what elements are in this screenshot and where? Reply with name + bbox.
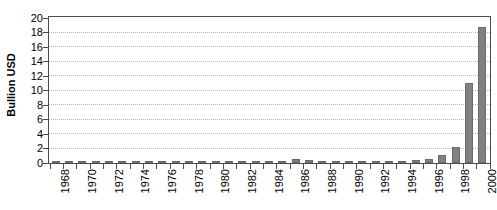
y-axis-title-label: Bullion USD (5, 53, 17, 117)
bar (438, 155, 446, 163)
bar (398, 161, 406, 163)
bar (118, 161, 126, 163)
y-axis-tick-label: 20 (31, 12, 43, 23)
y-axis-tick-label: 10 (31, 85, 43, 96)
x-axis-tick-label-text: 1988 (327, 169, 338, 193)
bar (252, 161, 260, 163)
x-axis-tick-label-text: 1992 (380, 169, 391, 193)
bar (278, 161, 286, 163)
x-axis-tick-label-text: 1998 (460, 169, 471, 193)
bar (92, 161, 100, 163)
bar (65, 161, 73, 163)
x-axis-tick-label-text: 1974 (140, 169, 151, 193)
bar-chart: Bullion USD 02468101214161820 1968197019… (0, 0, 497, 210)
x-axis-tick-label-text: 1968 (60, 169, 71, 193)
bar (185, 161, 193, 163)
x-axis-tick-label: 1974 (130, 169, 142, 209)
bar (478, 27, 486, 163)
x-axis-tick-label: 1992 (370, 169, 382, 209)
bar (305, 160, 313, 163)
bar (465, 83, 473, 163)
bar (292, 159, 300, 163)
x-axis-tick-label: 2000 (477, 169, 489, 209)
bar (198, 161, 206, 163)
bar (225, 161, 233, 163)
bar (132, 161, 140, 163)
bar (238, 161, 246, 163)
plot-area (48, 16, 491, 164)
bar (212, 161, 220, 163)
x-axis-tick-label-text: 1994 (407, 169, 418, 193)
x-axis-tick-label: 1972 (104, 169, 116, 209)
x-axis-tick-label: 1990 (344, 169, 356, 209)
bar (52, 161, 60, 163)
bar (345, 161, 353, 163)
x-axis-tick-label: 1968 (50, 169, 62, 209)
bar (105, 161, 113, 163)
bar (265, 161, 273, 163)
x-axis-tick-label: 1986 (290, 169, 302, 209)
bar (412, 160, 420, 163)
bar (318, 161, 326, 163)
y-axis-tick-label: 12 (31, 70, 43, 81)
y-axis-tick-labels: 02468101214161820 (20, 10, 46, 164)
x-axis-tick-label: 1998 (450, 169, 462, 209)
x-axis-tick-label-text: 1976 (167, 169, 178, 193)
y-axis-title: Bullion USD (0, 0, 22, 170)
y-axis-tick-label: 16 (31, 41, 43, 52)
x-axis-tick-label-text: 2000 (487, 169, 497, 193)
x-axis-tick-label: 1996 (424, 169, 436, 209)
x-axis-tick-label: 1994 (397, 169, 409, 209)
x-axis-tick-label-text: 1970 (87, 169, 98, 193)
bar (145, 161, 153, 163)
x-axis-tick-label: 1984 (264, 169, 276, 209)
x-axis-tick-label-text: 1978 (194, 169, 205, 193)
x-axis-tick-label-text: 1996 (434, 169, 445, 193)
bar (385, 161, 393, 163)
x-axis-tick-label-text: 1986 (300, 169, 311, 193)
bar (425, 159, 433, 163)
bar (158, 161, 166, 163)
x-axis-tick-label: 1980 (210, 169, 222, 209)
x-axis-tick-label-text: 1990 (354, 169, 365, 193)
x-axis-tick-label-text: 1980 (220, 169, 231, 193)
y-axis-tick-label: 14 (31, 56, 43, 67)
x-axis-tick-labels: 1968197019721974197619781980198219841986… (48, 169, 491, 210)
bar (78, 161, 86, 163)
bar (372, 161, 380, 163)
x-axis-tick-label-text: 1984 (274, 169, 285, 193)
x-axis-tick-label: 1978 (184, 169, 196, 209)
x-axis-tick-label-text: 1982 (247, 169, 258, 193)
x-axis-tick-label: 1970 (77, 169, 89, 209)
x-axis-tick-label-text: 1972 (114, 169, 125, 193)
y-axis-tick-label: 18 (31, 27, 43, 38)
bar (452, 147, 460, 163)
x-axis-tick-label: 1982 (237, 169, 249, 209)
bar (172, 161, 180, 163)
bar (358, 161, 366, 163)
x-axis-tick-label: 1976 (157, 169, 169, 209)
x-axis-tick-label: 1988 (317, 169, 329, 209)
bar-series (49, 17, 490, 163)
bar (332, 161, 340, 163)
